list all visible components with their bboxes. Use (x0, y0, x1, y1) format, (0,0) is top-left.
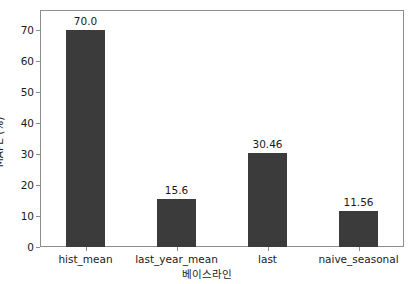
bar[interactable] (157, 199, 196, 247)
bar[interactable] (339, 211, 378, 247)
bar-value-label: 70.0 (46, 15, 126, 27)
x-tick-mark (86, 247, 87, 251)
x-axis-title: 베이스라인 (0, 266, 414, 281)
y-tick-label: 50 (0, 86, 34, 98)
y-tick-label: 10 (0, 210, 34, 222)
bar-chart-figure: MAPE (%) 010203040506070 70.015.630.4611… (0, 0, 414, 284)
y-tick-mark (36, 61, 40, 62)
x-tick-mark (268, 247, 269, 251)
y-tick-label: 40 (0, 117, 34, 129)
y-tick-label: 20 (0, 179, 34, 191)
x-tick-label: naive_seasonal (318, 253, 398, 265)
y-tick-mark (36, 154, 40, 155)
y-tick-label: 0 (0, 241, 34, 253)
y-tick-mark (36, 185, 40, 186)
bar-value-label: 15.6 (137, 184, 217, 196)
bar[interactable] (66, 30, 105, 247)
bar[interactable] (248, 153, 287, 247)
y-tick-label: 30 (0, 148, 34, 160)
x-tick-mark (359, 247, 360, 251)
x-tick-label: last_year_mean (135, 253, 218, 265)
x-tick-mark (177, 247, 178, 251)
x-tick-label: last (258, 253, 277, 265)
bar-value-label: 11.56 (319, 196, 399, 208)
y-tick-label: 70 (0, 24, 34, 36)
y-tick-mark (36, 247, 40, 248)
y-tick-mark (36, 216, 40, 217)
y-tick-mark (36, 30, 40, 31)
x-tick-label: hist_mean (58, 253, 112, 265)
y-tick-label: 60 (0, 55, 34, 67)
y-tick-mark (36, 123, 40, 124)
y-tick-mark (36, 92, 40, 93)
bar-value-label: 30.46 (228, 138, 308, 150)
